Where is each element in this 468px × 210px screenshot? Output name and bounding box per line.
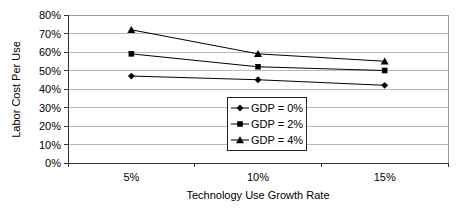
y-tick-label: 50% bbox=[39, 65, 61, 77]
triangle-marker-icon bbox=[231, 134, 249, 146]
legend-label: GDP = 0% bbox=[251, 102, 303, 114]
diamond-glyph bbox=[237, 105, 244, 112]
x-tick-label: 5% bbox=[123, 171, 139, 183]
y-tick-label: 40% bbox=[39, 83, 61, 95]
square-data-point bbox=[382, 68, 388, 74]
square-marker-icon bbox=[231, 118, 249, 130]
y-tick-label: 80% bbox=[39, 9, 61, 21]
legend: GDP = 0% GDP = 2% GDP = 4% bbox=[227, 97, 307, 151]
triangle-data-point bbox=[127, 26, 135, 33]
diamond-marker-icon bbox=[231, 102, 249, 114]
diamond-data-point bbox=[128, 73, 135, 80]
square-data-point bbox=[129, 51, 135, 57]
square-glyph bbox=[237, 121, 243, 127]
x-tick-label: 15% bbox=[374, 171, 396, 183]
y-tick-label: 0% bbox=[45, 157, 61, 169]
legend-item-gdp-4: GDP = 4% bbox=[231, 133, 303, 148]
y-tick-label: 20% bbox=[39, 120, 61, 132]
x-axis-title: Technology Use Growth Rate bbox=[108, 188, 408, 203]
square-data-point bbox=[255, 64, 261, 70]
legend-item-gdp-0: GDP = 0% bbox=[231, 101, 303, 116]
diamond-data-point bbox=[255, 76, 262, 83]
diamond-data-point bbox=[381, 82, 388, 89]
legend-item-gdp-2: GDP = 2% bbox=[231, 117, 303, 132]
y-tick-label: 10% bbox=[39, 139, 61, 151]
legend-label: GDP = 4% bbox=[251, 134, 303, 146]
legend-label: GDP = 2% bbox=[251, 118, 303, 130]
y-tick-label: 70% bbox=[39, 28, 61, 40]
y-tick-label: 30% bbox=[39, 102, 61, 114]
x-tick-label: 10% bbox=[247, 171, 269, 183]
y-axis-title: Labor Cost Per Use bbox=[9, 15, 24, 165]
line-chart: 0%10%20%30%40%50%60%70%80%5%10%15% Labor… bbox=[0, 0, 468, 210]
y-tick-label: 60% bbox=[39, 46, 61, 58]
